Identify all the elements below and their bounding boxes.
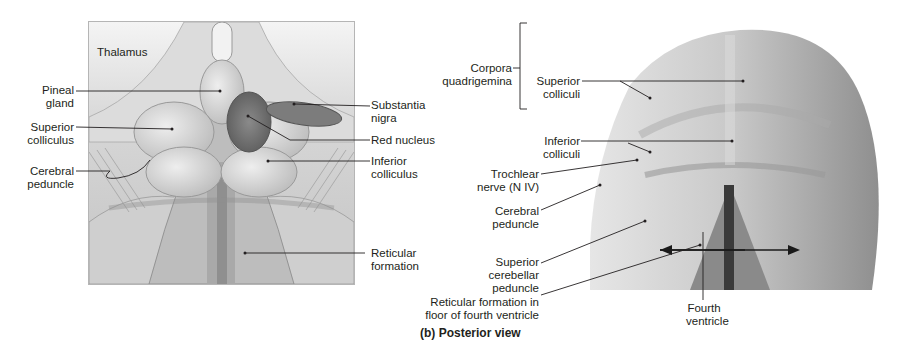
label-inferior-colliculi: Inferior colliculi [543,135,580,161]
label-fourth-ventricle: Fourth ventricle [686,302,722,328]
label-corpora-quadrigemina: Corpora quadrigemina [442,62,512,88]
label-cerebral-peduncle-left: Cerebral peduncle [27,165,74,191]
label-superior-colliculus: Superior colliculus [27,121,74,147]
label-inferior-colliculus: Inferior colliculus [371,155,418,181]
label-cerebral-peduncle-right: Cerebral peduncle [492,205,539,231]
label-red-nucleus: Red nucleus [371,134,435,147]
label-thalamus: Thalamus [97,46,148,59]
label-reticular-formation-floor: Reticular formation in floor of fourth v… [425,296,539,322]
label-pineal-gland: Pineal gland [42,84,74,110]
label-trochlear-nerve: Trochlear nerve (N IV) [477,168,539,194]
label-substantia-nigra: Substantia nigra [371,99,425,125]
label-superior-colliculi: Superior colliculi [537,75,580,101]
label-superior-cerebellar-peduncle: Superior cerebellar peduncle [489,256,540,295]
label-reticular-formation: Reticular formation [371,247,419,273]
figure-caption: (b) Posterior view [420,326,521,340]
